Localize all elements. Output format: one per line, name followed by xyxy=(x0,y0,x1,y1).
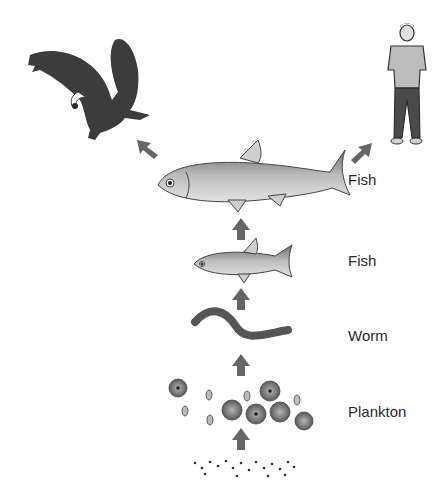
worm-icon xyxy=(195,311,288,335)
eagle-icon xyxy=(28,39,150,140)
label-plankton: Plankton xyxy=(348,403,406,420)
arrow-particles-to-plankton xyxy=(232,428,250,450)
arrow-large-fish-to-human xyxy=(351,143,372,164)
human-icon xyxy=(388,24,426,145)
large-fish-icon xyxy=(158,140,350,212)
label-large-fish: Fish xyxy=(348,171,376,188)
arrow-worm-to-small-fish xyxy=(232,288,250,310)
plankton-icon xyxy=(169,379,313,430)
arrow-large-fish-to-eagle xyxy=(137,140,158,159)
label-worm: Worm xyxy=(348,327,388,344)
small-fish-icon xyxy=(194,238,292,283)
arrow-plankton-to-worm xyxy=(232,354,250,376)
label-small-fish: Fish xyxy=(348,252,376,269)
particles-icon xyxy=(194,460,296,478)
diagram-canvas xyxy=(0,0,446,498)
food-chain-diagram: Fish Fish Worm Plankton xyxy=(0,0,446,498)
arrow-small-fish-to-large-fish xyxy=(232,218,250,240)
